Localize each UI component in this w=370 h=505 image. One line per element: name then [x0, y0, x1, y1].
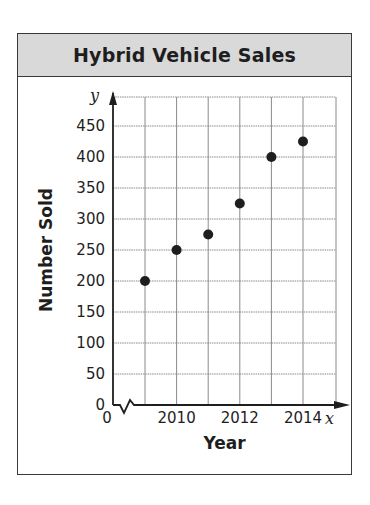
- x-tick-label: 2012: [221, 409, 259, 427]
- y-axis-arrow-icon: [109, 91, 117, 105]
- x-axis-label: Year: [202, 433, 246, 453]
- y-axis-variable: y: [89, 86, 100, 105]
- y-tick-label: 450: [76, 117, 105, 135]
- x-axis-arrow-icon: [334, 401, 350, 409]
- data-point: [298, 137, 308, 147]
- data-point: [266, 152, 276, 162]
- data-point: [235, 199, 245, 209]
- x-tick-label: 0: [102, 409, 112, 427]
- y-tick-label: 50: [86, 365, 105, 383]
- data-point: [172, 245, 182, 255]
- y-tick-label: 250: [76, 241, 105, 259]
- x-tick-label: 2014: [284, 409, 322, 427]
- y-tick-label: 350: [76, 179, 105, 197]
- y-tick-label: 150: [76, 303, 105, 321]
- y-tick-label: 200: [76, 272, 105, 290]
- data-point: [140, 276, 150, 286]
- scatter-plot: 050100150200250300350400450y020102012201…: [0, 0, 370, 505]
- y-tick-label: 100: [76, 334, 105, 352]
- y-tick-label: 400: [76, 148, 105, 166]
- y-tick-label: 300: [76, 210, 105, 228]
- y-axis-label: Number Sold: [36, 188, 56, 312]
- x-tick-label: 2010: [158, 409, 196, 427]
- data-point: [203, 230, 213, 240]
- x-axis-variable: x: [325, 409, 334, 428]
